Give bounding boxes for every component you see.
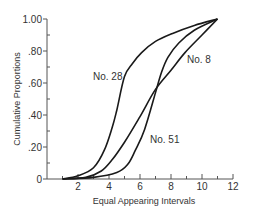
y-tick-label: .60 bbox=[28, 78, 42, 89]
curve-no-8 bbox=[63, 19, 218, 179]
y-tick-label: 0 bbox=[36, 174, 42, 185]
y-tick-label: .40 bbox=[28, 110, 42, 121]
x-axis-title: Equal Appearing Intervals bbox=[93, 196, 196, 206]
x-tick-label: 12 bbox=[227, 181, 239, 192]
x-tick-label: 4 bbox=[106, 181, 112, 192]
y-tick-label: 1.00 bbox=[23, 14, 43, 25]
ticks: 0.20.40.60.801.0024681012 bbox=[23, 14, 239, 193]
axes bbox=[47, 19, 233, 179]
y-tick-label: .80 bbox=[28, 46, 42, 57]
x-tick-label: 8 bbox=[168, 181, 174, 192]
curves bbox=[63, 19, 218, 179]
curve-label-no-28: No. 28 bbox=[93, 71, 123, 82]
x-tick-label: 2 bbox=[75, 181, 81, 192]
y-tick-label: .20 bbox=[28, 142, 42, 153]
cumulative-proportions-chart: 0.20.40.60.801.0024681012 No. 28No. 8No.… bbox=[0, 0, 253, 219]
x-tick-label: 6 bbox=[137, 181, 143, 192]
x-tick-label: 10 bbox=[196, 181, 208, 192]
y-axis-title: Cumulative Proportions bbox=[12, 52, 22, 146]
curve-label-no-51: No. 51 bbox=[150, 134, 180, 145]
curve-label-no-8: No. 8 bbox=[187, 54, 211, 65]
